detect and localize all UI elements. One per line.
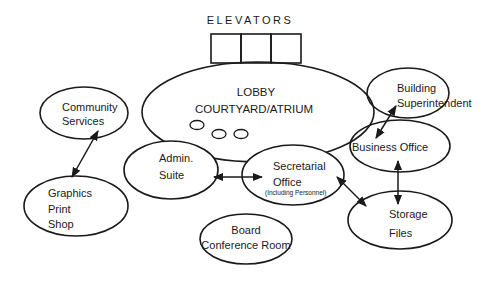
- elevator-2: [241, 34, 271, 63]
- graphics-label-3: Shop: [48, 218, 74, 230]
- elevator-bank: [211, 34, 301, 63]
- node-community-services: Community Services: [40, 87, 128, 139]
- community-label-1: Community: [62, 101, 118, 113]
- admin-label-2: Suite: [159, 169, 184, 181]
- graphics-label-2: Print: [48, 203, 71, 215]
- elevators-label: ELEVATORS: [207, 14, 294, 26]
- lobby-label-2: COURTYARD/ATRIUM: [195, 103, 313, 115]
- graphics-ellipse: [24, 176, 128, 236]
- elevator-3: [271, 34, 301, 63]
- building-label-2: Superintendent: [397, 97, 472, 109]
- node-admin-suite: Admin. Suite: [124, 141, 218, 199]
- lobby-label-1: LOBBY: [237, 86, 276, 98]
- secretarial-note: (Including Personnel): [265, 189, 326, 197]
- connector-secretarial-storage: [337, 177, 366, 206]
- node-secretarial-office: Secretarial Office (Including Personnel): [242, 145, 344, 205]
- secretarial-label-2: Office: [273, 176, 302, 188]
- storage-label-2: Files: [389, 227, 413, 239]
- lobby-feature-2: [212, 130, 226, 139]
- board-label-1: Board: [231, 224, 260, 236]
- admin-label-1: Admin.: [159, 152, 193, 164]
- secretarial-label-1: Secretarial: [273, 160, 326, 172]
- community-ellipse: [40, 87, 128, 139]
- board-label-2: Conference Room: [201, 239, 290, 251]
- node-storage-files: Storage Files: [348, 191, 452, 249]
- floor-plan-diagram: ELEVATORS LOBBY COURTYARD/ATRIUM Communi…: [0, 0, 497, 282]
- building-label-1: Building: [397, 82, 436, 94]
- node-graphics-print-shop: Graphics Print Shop: [24, 176, 128, 236]
- storage-label-1: Storage: [389, 208, 428, 220]
- node-board-conference-room: Board Conference Room: [200, 214, 292, 264]
- lobby-feature-3: [234, 130, 248, 139]
- secretarial-ellipse: [242, 145, 344, 205]
- graphics-label-1: Graphics: [48, 187, 93, 199]
- lobby-feature-1: [190, 121, 204, 130]
- business-label: Business Office: [352, 141, 428, 153]
- node-building-superintendent: Building Superintendent: [367, 68, 472, 118]
- community-label-2: Services: [62, 115, 105, 127]
- storage-ellipse: [348, 191, 452, 249]
- node-business-office: Business Office: [350, 120, 450, 172]
- elevator-1: [211, 34, 241, 63]
